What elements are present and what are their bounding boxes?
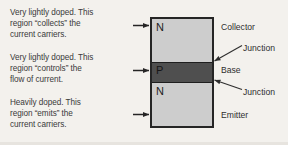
- label-emitter: Emitter: [221, 110, 248, 120]
- scan-edge: [0, 142, 288, 145]
- description-emitter: Heavily doped. This region “emits” the c…: [10, 98, 132, 131]
- label-junction-bottom: Junction: [243, 87, 275, 97]
- region-letter-emitter: N: [156, 85, 164, 97]
- description-base: Very lightly doped. This region “control…: [10, 53, 132, 86]
- leader-line-arrow-icon-junction-top: [215, 46, 243, 62]
- region-letter-base: P: [156, 64, 163, 76]
- label-base: Base: [221, 65, 241, 75]
- description-collector: Very lightly doped. This region “collect…: [10, 8, 132, 41]
- region-base: P: [152, 62, 212, 83]
- label-collector: Collector: [221, 22, 255, 32]
- region-emitter: N: [152, 83, 212, 126]
- leader-line-arrow-icon-junction-bottom: [215, 80, 243, 90]
- transistor-body: N P N: [150, 17, 214, 128]
- figure-canvas: Very lightly doped. This region “collect…: [0, 0, 288, 145]
- label-junction-top: Junction: [243, 43, 275, 53]
- region-letter-collector: N: [156, 21, 164, 33]
- region-collector: N: [152, 19, 212, 62]
